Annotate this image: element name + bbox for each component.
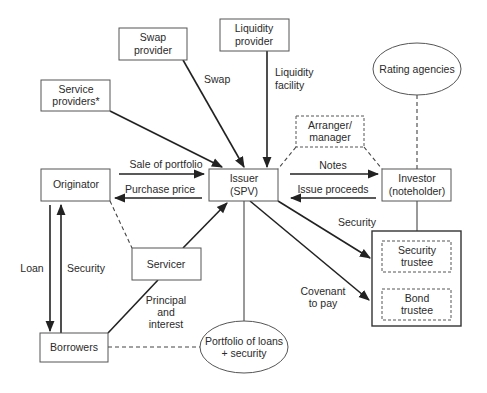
node-servicer: Servicer xyxy=(132,248,201,280)
node-arranger-manager: Arranger/ manager xyxy=(296,116,364,147)
edge-label-security-trustee: Security xyxy=(338,216,377,228)
edge-label-interest: interest xyxy=(149,318,184,330)
servicer-label: Servicer xyxy=(147,258,186,270)
originator-label: Originator xyxy=(53,178,100,190)
security-trustee-label-2: trustee xyxy=(401,256,433,268)
node-bond-trustee: Bond trustee xyxy=(382,289,451,320)
edge-security-to-trustee xyxy=(278,201,370,258)
edge-arranger-issuer xyxy=(278,147,296,169)
edge-originator-servicer xyxy=(110,201,132,248)
node-issuer-spv: Issuer (SPV) xyxy=(209,169,278,201)
service-providers-label-2: providers* xyxy=(52,95,99,107)
node-investor: Investor (noteholder) xyxy=(382,169,451,201)
edge-label-notes: Notes xyxy=(319,159,346,171)
securitisation-structure-diagram: Swap provider Liquidity provider Service… xyxy=(0,0,487,393)
node-borrowers: Borrowers xyxy=(40,333,108,362)
bond-trustee-label: Bond xyxy=(405,292,430,304)
edge-label-loan: Loan xyxy=(20,262,44,274)
edge-label-purchase-price: Purchase price xyxy=(125,183,195,195)
edge-label-facility: facility xyxy=(275,79,305,91)
edge-servicer-issuer xyxy=(183,203,227,248)
edge-label-swap: Swap xyxy=(204,73,230,85)
security-trustee-label: Security xyxy=(398,244,437,256)
node-swap-provider: Swap provider xyxy=(119,28,187,60)
bond-trustee-label-2: trustee xyxy=(401,304,433,316)
investor-label: Investor xyxy=(398,172,436,184)
node-security-trustee: Security trustee xyxy=(382,241,451,272)
edge-label-and: and xyxy=(157,306,175,318)
issuer-label: Issuer xyxy=(230,172,259,184)
edge-label-to-pay: to pay xyxy=(309,297,338,309)
service-providers-label: Service xyxy=(58,83,93,95)
edge-label-security-borrower: Security xyxy=(67,262,106,274)
swap-provider-label: Swap xyxy=(140,31,166,43)
arranger-label: Arranger/ xyxy=(308,119,352,131)
node-rating-agencies: Rating agencies xyxy=(373,43,461,95)
liquidity-provider-label: Liquidity xyxy=(235,22,274,34)
edge-label-sale-of-portfolio: Sale of portfolio xyxy=(130,158,203,170)
arranger-label-2: manager xyxy=(309,131,351,143)
rating-agencies-label: Rating agencies xyxy=(379,63,454,75)
investor-label-2: (noteholder) xyxy=(389,185,446,197)
edge-arranger-investor xyxy=(364,147,382,169)
liquidity-provider-label-2: provider xyxy=(235,35,273,47)
swap-provider-label-2: provider xyxy=(134,44,172,56)
portfolio-label: Portfolio of loans xyxy=(205,335,283,347)
edge-label-issue-proceeds: Issue proceeds xyxy=(297,183,368,195)
node-originator: Originator xyxy=(41,169,110,201)
node-service-providers: Service providers* xyxy=(41,80,110,111)
edge-label-covenant: Covenant xyxy=(301,285,346,297)
node-trustees-container: Security trustee Bond trustee xyxy=(372,231,461,326)
node-portfolio: Portfolio of loans + security xyxy=(200,321,288,373)
portfolio-label-2: + security xyxy=(221,347,267,359)
edge-label-liquidity: Liquidity xyxy=(275,66,314,78)
edge-label-principal: Principal xyxy=(146,294,186,306)
issuer-label-2: (SPV) xyxy=(230,185,258,197)
borrowers-label: Borrowers xyxy=(50,341,98,353)
node-liquidity-provider: Liquidity provider xyxy=(220,19,289,51)
